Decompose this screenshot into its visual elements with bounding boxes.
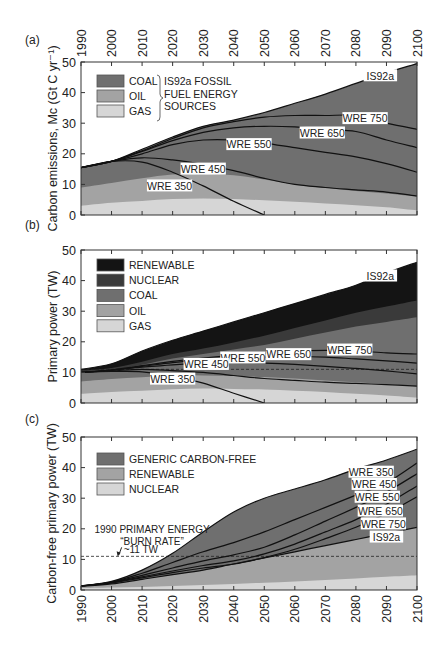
legend-label-renewable: RENEWABLE bbox=[129, 259, 195, 271]
y-tick-label: 30 bbox=[62, 117, 76, 131]
y-tick-label: 30 bbox=[62, 492, 76, 506]
legend-swatch-gas bbox=[97, 320, 124, 332]
x-tick-label: 2100 bbox=[411, 595, 425, 623]
panel-letter: (b) bbox=[25, 218, 40, 232]
y-tick-label: 50 bbox=[62, 431, 76, 445]
svg-text:WRE 650: WRE 650 bbox=[358, 505, 403, 517]
legend-swatch-nuclear bbox=[97, 483, 124, 495]
curve-label-wre-350: WRE 350 bbox=[150, 373, 195, 385]
y-tick-label: 50 bbox=[62, 244, 76, 258]
legend-label-nuclear: NUCLEAR bbox=[129, 483, 180, 495]
curve-label-is92a: IS92a bbox=[370, 531, 404, 543]
legend-label-nuclear: NUCLEAR bbox=[129, 274, 180, 286]
x-tick-label: 2060 bbox=[288, 595, 302, 623]
legend: COALOILGASIS92a FOSSILFUEL ENERGYSOURCES bbox=[97, 75, 238, 121]
legend-group-label: SOURCES bbox=[164, 100, 216, 112]
x-tick-label: 2000 bbox=[105, 595, 119, 623]
legend: RENEWABLENUCLEARCOALOILGAS bbox=[97, 259, 195, 332]
x-tick-label: 2100 bbox=[411, 29, 425, 57]
y-tick-label: 20 bbox=[62, 147, 76, 161]
curve-label-wre-550: WRE 550 bbox=[355, 491, 400, 503]
legend-label-oil: OIL bbox=[129, 90, 146, 102]
curve-label-is92a: IS92a bbox=[364, 69, 398, 81]
curve-label-wre-350: WRE 350 bbox=[349, 466, 394, 478]
curve-label-wre-450: WRE 450 bbox=[352, 478, 397, 490]
panel-a-emissions-chart: IS92aWRE 750WRE 650WRE 550WRE 450WRE 350… bbox=[25, 29, 425, 231]
y-tick-label: 0 bbox=[69, 209, 76, 223]
y-tick-label: 40 bbox=[62, 86, 76, 100]
x-tick-label: 2040 bbox=[227, 29, 241, 57]
y-tick-label: 20 bbox=[62, 522, 76, 536]
y-tick-label: 10 bbox=[62, 178, 76, 192]
y-tick-label: 20 bbox=[62, 335, 76, 349]
x-tick-label: 2020 bbox=[166, 595, 180, 623]
x-tick-label: 2030 bbox=[197, 29, 211, 57]
svg-text:WRE 650: WRE 650 bbox=[266, 348, 311, 360]
x-tick-label: 2080 bbox=[349, 595, 363, 623]
legend-swatch-oil bbox=[97, 305, 124, 317]
legend-swatch-gas bbox=[97, 105, 124, 117]
svg-text:1990 PRIMARY ENERGY: 1990 PRIMARY ENERGY bbox=[94, 524, 210, 535]
x-tick-label: 2090 bbox=[380, 29, 394, 57]
legend-swatch-nuclear bbox=[97, 274, 124, 286]
legend-label-gas: GAS bbox=[129, 105, 151, 117]
svg-text:WRE 450: WRE 450 bbox=[184, 358, 229, 370]
legend: GENERIC CARBON-FREERENEWABLENUCLEAR bbox=[97, 453, 256, 495]
x-tick-label: 2090 bbox=[380, 595, 394, 623]
legend-label-renewable: RENEWABLE bbox=[129, 468, 195, 480]
x-tick-label: 2020 bbox=[166, 29, 180, 57]
svg-text:IS92a: IS92a bbox=[367, 70, 395, 82]
curve-label-wre-750: WRE 750 bbox=[361, 517, 406, 529]
curve-label-wre-750: WRE 750 bbox=[327, 344, 372, 356]
svg-text:WRE 450: WRE 450 bbox=[181, 163, 226, 175]
svg-text:~11 TW: ~11 TW bbox=[124, 544, 159, 555]
panel-letter: (c) bbox=[25, 412, 39, 426]
svg-text:IS92a: IS92a bbox=[367, 270, 395, 282]
svg-text:WRE 550: WRE 550 bbox=[227, 138, 272, 150]
curve-label-wre-450: WRE 450 bbox=[181, 163, 226, 175]
svg-text:WRE 750: WRE 750 bbox=[343, 112, 388, 124]
svg-text:WRE 750: WRE 750 bbox=[361, 518, 406, 530]
legend-group-label: IS92a FOSSIL bbox=[164, 75, 232, 87]
curve-label-wre-450: WRE 450 bbox=[184, 358, 229, 370]
curve-label-is92a: IS92a bbox=[364, 270, 398, 282]
panel-c-carbon-free-power-chart: WRE 350WRE 450WRE 550WRE 650WRE 750IS92a… bbox=[25, 412, 425, 623]
y-axis-title: Primary power (TW) bbox=[46, 271, 60, 383]
curve-label-wre-650: WRE 650 bbox=[266, 348, 311, 360]
panel-letter: (a) bbox=[25, 33, 40, 47]
svg-text:WRE 550: WRE 550 bbox=[355, 491, 400, 503]
svg-text:WRE 350: WRE 350 bbox=[150, 373, 195, 385]
x-tick-label: 2060 bbox=[288, 29, 302, 57]
x-tick-label: 2010 bbox=[136, 595, 150, 623]
legend-group-label: FUEL ENERGY bbox=[164, 88, 238, 100]
y-tick-label: 30 bbox=[62, 305, 76, 319]
x-tick-label: 2000 bbox=[105, 29, 119, 57]
x-tick-label: 1990 bbox=[75, 595, 89, 623]
x-tick-label: 2030 bbox=[197, 595, 211, 623]
curve-label-wre-650: WRE 650 bbox=[358, 505, 403, 517]
legend-swatch-coal bbox=[97, 75, 124, 87]
curve-label-wre-750: WRE 750 bbox=[342, 112, 387, 124]
x-tick-label: 2010 bbox=[136, 29, 150, 57]
svg-text:WRE 750: WRE 750 bbox=[327, 344, 372, 356]
curve-label-wre-650: WRE 650 bbox=[300, 126, 345, 138]
figure: IS92aWRE 750WRE 650WRE 550WRE 450WRE 350… bbox=[0, 0, 445, 645]
legend-label-generic-carbon-free: GENERIC CARBON-FREE bbox=[129, 453, 256, 465]
legend-swatch-oil bbox=[97, 90, 124, 102]
x-tick-label: 1990 bbox=[75, 29, 89, 57]
y-tick-label: 0 bbox=[69, 397, 76, 411]
y-tick-label: 40 bbox=[62, 461, 76, 475]
y-tick-label: 40 bbox=[62, 274, 76, 288]
x-tick-label: 2070 bbox=[319, 29, 333, 57]
x-tick-label: 2040 bbox=[227, 595, 241, 623]
legend-label-oil: OIL bbox=[129, 305, 146, 317]
x-tick-label: 2080 bbox=[349, 29, 363, 57]
y-axis-title: Carbon-free primary power (TW) bbox=[45, 423, 59, 604]
curve-label-wre-550: WRE 550 bbox=[226, 138, 271, 150]
y-tick-label: 10 bbox=[62, 553, 76, 567]
y-axis-title: Carbon emissions, Mc (Gt C yr⁻¹) bbox=[46, 45, 60, 231]
x-tick-label: 2050 bbox=[258, 29, 272, 57]
x-tick-label: 2050 bbox=[258, 595, 272, 623]
legend-bracket bbox=[157, 75, 163, 121]
legend-swatch-renewable bbox=[97, 259, 124, 271]
